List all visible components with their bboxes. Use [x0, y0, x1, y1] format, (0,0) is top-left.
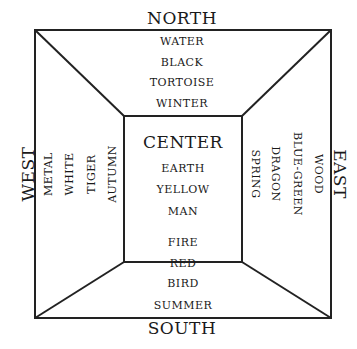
- north-item-black: BLACK: [161, 56, 203, 69]
- north-item-tortoise: TORTOISE: [150, 76, 215, 89]
- east-label: EAST: [330, 149, 350, 199]
- diagonal-nw: [35, 30, 124, 116]
- west-item-metal: METAL: [42, 152, 55, 196]
- north-item-winter: WINTER: [156, 97, 208, 110]
- east-item-wood: WOOD: [312, 154, 325, 194]
- east-item-blue-green: BLUE-GREEN: [291, 132, 304, 216]
- south-item-fire: FIRE: [168, 236, 198, 249]
- west-item-tiger: TIGER: [85, 154, 98, 193]
- center-title: CENTER: [143, 132, 223, 152]
- west-label: WEST: [18, 147, 38, 202]
- center-item-earth: EARTH: [161, 162, 205, 175]
- south-item-red: RED: [170, 257, 197, 270]
- diagonal-se: [242, 262, 331, 318]
- south-item-bird: BIRD: [167, 277, 199, 290]
- north-item-water: WATER: [160, 35, 204, 48]
- center-item-yellow: YELLOW: [156, 183, 209, 196]
- west-item-white: WHITE: [63, 152, 76, 195]
- center-item-man: MAN: [168, 205, 198, 218]
- south-item-summer: SUMMER: [154, 299, 213, 312]
- diagonal-sw: [35, 262, 124, 318]
- east-item-dragon: DRAGON: [269, 146, 282, 201]
- west-item-autumn: AUTUMN: [106, 145, 119, 203]
- north-label: NORTH: [147, 8, 217, 28]
- east-item-spring: SPRING: [249, 150, 262, 199]
- south-label: SOUTH: [148, 318, 217, 338]
- diagonal-ne: [242, 30, 331, 116]
